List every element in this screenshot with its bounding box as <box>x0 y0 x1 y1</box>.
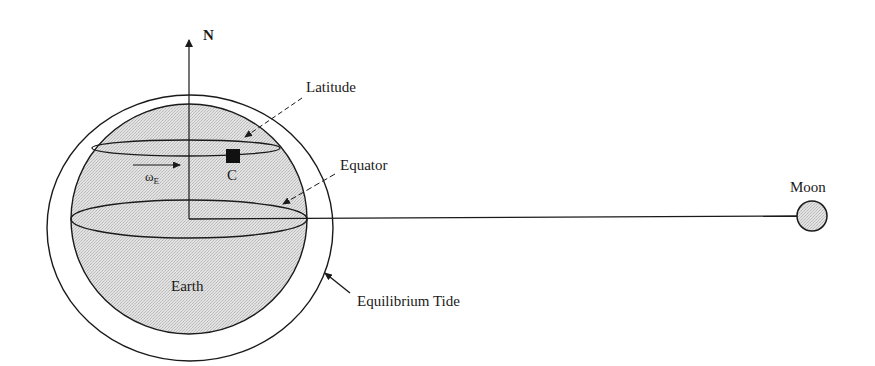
north-label: N <box>203 27 214 43</box>
point-c-label: C <box>227 167 237 183</box>
latitude-label: Latitude <box>306 79 356 95</box>
point-c-marker <box>226 149 240 163</box>
moon-label: Moon <box>790 179 826 195</box>
earth-label: Earth <box>171 278 204 294</box>
omega-subscript: E <box>154 176 160 186</box>
tide-leader <box>325 273 350 293</box>
moon-circle <box>797 201 827 231</box>
equilibrium-tide-label: Equilibrium Tide <box>357 293 460 309</box>
equator-label: Equator <box>340 157 387 173</box>
earth-moon-tide-diagram: N Moon C ωE Latitude Equator Earth Equil… <box>0 0 875 366</box>
